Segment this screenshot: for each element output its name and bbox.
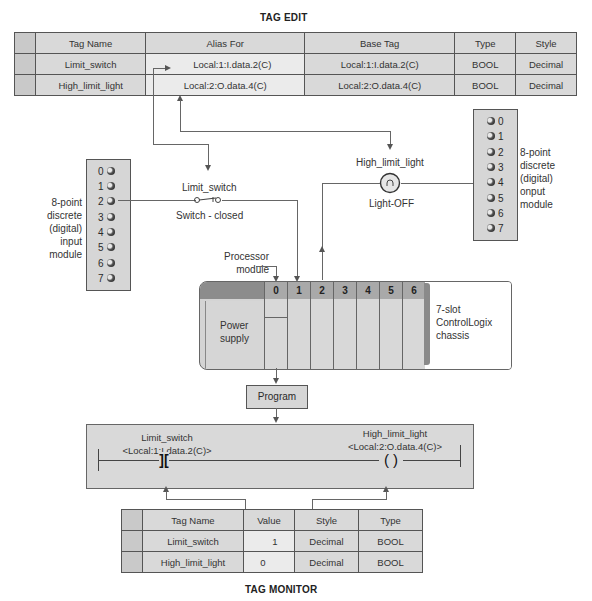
slot-body [356,299,379,369]
connector-line [153,68,154,145]
input-point-3: 3 [98,210,115,224]
alias-for-cell[interactable]: Local:1:I.data.2(C) [146,54,304,75]
ote-coil-icon[interactable]: ( ) [379,452,403,468]
pilot-light-icon [379,172,401,194]
light-state-label: Light-OFF [369,197,414,210]
style-cell[interactable]: Decimal [295,552,359,573]
connector-line [390,131,391,145]
slot-4[interactable]: 4 [356,282,379,299]
table-row[interactable]: High_limit_light Local:2:O.data.4(C) Loc… [15,75,577,96]
label-line: (digital) [520,172,555,185]
output-wire [322,183,323,280]
led-indicator-icon [107,197,115,205]
slot-3[interactable]: 3 [333,282,356,299]
slot-body [402,299,426,369]
column-header: Style [516,33,577,54]
connector-line [256,266,276,267]
ladder-rung: Limit_switch <Local:1:I.data.2(C)> ][ Hi… [86,424,474,489]
label-line: discrete [44,209,82,222]
led-indicator-icon [487,194,495,202]
table-header-row: Tag Name Alias For Base Tag Type Style [15,33,577,54]
row-stub[interactable] [15,75,36,96]
row-stub[interactable] [122,552,143,573]
output-module-label: 8-point discrete (digital) onput module [520,146,555,211]
table-row[interactable]: Limit_switch 1 Decimal BOOL [122,531,423,552]
table-row[interactable]: High_limit_light 0 Decimal BOOL [122,552,423,573]
point-number: 7 [98,273,104,284]
output-point-1: 1 [487,129,504,143]
tag-name-cell[interactable]: Limit_switch [143,531,244,552]
slot-0[interactable]: 0 [264,282,287,299]
led-indicator-icon [107,182,115,190]
arrow-down-icon [273,378,279,384]
point-number: 5 [98,242,104,253]
column-header: Style [295,510,359,531]
arrow-up-icon [319,246,325,252]
base-tag-cell: Local:1:I.data.2(C) [304,54,454,75]
tag-name-cell[interactable]: High_limit_light [35,75,146,96]
input-point-5: 5 [98,240,115,254]
column-header: Alias For [146,33,304,54]
point-number: 1 [498,131,504,142]
row-stub[interactable] [15,54,36,75]
xic-contact-icon[interactable]: ][ [159,452,169,468]
type-cell: BOOL [455,54,516,75]
arrow-down-icon [205,165,211,171]
output-point-7: 7 [487,221,504,235]
program-box[interactable]: Program [246,385,308,409]
coil-label: High_limit_light <Local:2:O.data.4(C)> [335,427,455,453]
label-line: 8-point [44,196,82,209]
row-stub[interactable] [122,531,143,552]
connector-line [312,499,387,500]
limit-switch-label: Limit_switch [182,181,236,194]
led-indicator-icon [487,132,495,140]
point-number: 1 [98,181,104,192]
label-line: onput [520,185,555,198]
column-header: Value [244,510,295,531]
arrow-right-icon [165,65,171,71]
table-header-row: Tag Name Value Style Type [122,510,423,531]
label-line: module [209,263,269,276]
led-indicator-icon [487,117,495,125]
output-wire [322,183,380,184]
value-cell[interactable]: 0 [244,552,295,573]
column-header: Type [455,33,516,54]
slot-5[interactable]: 5 [379,282,402,299]
point-number: 0 [498,116,504,127]
slot-body [310,299,333,369]
input-point-6: 6 [98,256,115,270]
label-line: (digital) [44,222,82,235]
led-indicator-icon [487,178,495,186]
label-line: input [44,235,82,248]
output-point-4: 4 [487,175,504,189]
processor-divider [264,317,287,318]
point-number: 0 [98,166,104,177]
value-cell[interactable]: 1 [244,531,295,552]
tag-name-cell[interactable]: Limit_switch [35,54,146,75]
led-indicator-icon [487,148,495,156]
led-indicator-icon [107,274,115,282]
slot-6[interactable]: 6 [402,282,425,299]
slot-2[interactable]: 2 [310,282,333,299]
label-line: chassis [436,329,492,342]
tag-name-cell[interactable]: High_limit_light [143,552,244,573]
slot-body [287,299,310,369]
input-point-7: 7 [98,271,115,285]
table-row[interactable]: Limit_switch Local:1:I.data.2(C) Local:1… [15,54,577,75]
style-cell[interactable]: Decimal [516,75,577,96]
type-cell: BOOL [455,75,516,96]
label-line: ControlLogix [436,316,492,329]
label-line: 7-slot [436,303,492,316]
led-indicator-icon [487,209,495,217]
tag-edit-title: TAG EDIT [260,12,308,23]
slot-1[interactable]: 1 [287,282,310,299]
point-number: 6 [98,258,104,269]
label-line: supply [220,332,249,345]
high-limit-light-label: High_limit_light [356,156,424,169]
type-cell: BOOL [359,552,423,573]
alias-for-cell[interactable]: Local:2:O.data.4(C) [146,75,304,96]
style-cell[interactable]: Decimal [295,531,359,552]
style-cell[interactable]: Decimal [516,54,577,75]
input-point-4: 4 [98,225,115,239]
point-number: 6 [498,208,504,219]
